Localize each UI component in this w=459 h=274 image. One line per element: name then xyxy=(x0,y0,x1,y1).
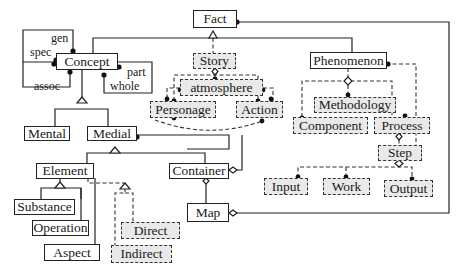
node-concept: Concept xyxy=(56,53,118,70)
node-step: Step xyxy=(378,145,422,161)
node-substance: Substance xyxy=(14,199,75,215)
diagram-canvas: Fact Concept Phenomenon Mental Medial El… xyxy=(0,0,459,274)
node-phenomenon: Phenomenon xyxy=(310,52,387,69)
node-output: Output xyxy=(384,180,433,197)
node-action: Action xyxy=(236,101,283,118)
node-container: Container xyxy=(169,163,229,179)
node-methodology: Methodology xyxy=(314,97,396,113)
node-personage: Personage xyxy=(150,101,216,118)
node-direct: Direct xyxy=(121,222,180,239)
fact-generalization-line xyxy=(93,38,352,53)
node-operation: Operation xyxy=(32,220,89,236)
role-label-assoc: assoc xyxy=(34,80,60,92)
node-input: Input xyxy=(264,178,308,195)
node-mental: Mental xyxy=(24,126,70,141)
node-story: Story xyxy=(193,53,236,69)
node-component: Component xyxy=(293,117,368,134)
node-indirect: Indirect xyxy=(111,245,172,263)
node-aspect: Aspect xyxy=(44,244,100,261)
node-map: Map xyxy=(187,203,229,222)
role-label-gen: gen xyxy=(51,32,68,44)
node-fact: Fact xyxy=(193,10,237,28)
role-label-whole: whole xyxy=(110,80,139,92)
node-medial: Medial xyxy=(87,126,137,141)
role-label-part: part xyxy=(127,66,146,78)
node-atmosphere: atmosphere xyxy=(180,79,263,96)
role-label-spec: spec xyxy=(30,46,51,58)
node-process: Process xyxy=(374,117,430,134)
node-work: Work xyxy=(323,178,370,195)
node-element: Element xyxy=(36,163,94,179)
